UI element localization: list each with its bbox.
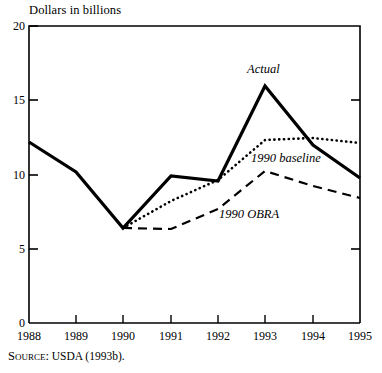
series-label-actual: Actual <box>247 63 280 76</box>
figure-container: Dollars in billions <box>0 0 382 373</box>
x-tick-label-1990: 1990 <box>100 330 146 342</box>
y-tick-label-5: 5 <box>1 243 25 255</box>
y-tick-label-0: 0 <box>1 317 25 329</box>
x-tick-label-1995: 1995 <box>337 330 382 342</box>
y-tick-label-10: 10 <box>1 169 25 181</box>
x-tick-label-1993: 1993 <box>242 330 288 342</box>
x-tick-label-1992: 1992 <box>195 330 241 342</box>
x-tick-label-1994: 1994 <box>290 330 336 342</box>
x-tick-label-1988: 1988 <box>6 330 52 342</box>
x-axis-ticks <box>76 315 313 323</box>
chart-plot <box>0 0 382 373</box>
y-tick-label-15: 15 <box>1 94 25 106</box>
series-label-obra: 1990 OBRA <box>219 208 279 221</box>
y-axis-ticks <box>29 26 38 249</box>
x-tick-label-1989: 1989 <box>53 330 99 342</box>
source-note-text: USDA (1993b). <box>49 350 125 362</box>
x-tick-label-1991: 1991 <box>148 330 194 342</box>
source-note-prefix: Source: <box>8 349 49 363</box>
source-note: Source: USDA (1993b). <box>8 350 125 363</box>
y-tick-label-20: 20 <box>1 20 25 32</box>
series-label-baseline: 1990 baseline <box>251 152 321 165</box>
